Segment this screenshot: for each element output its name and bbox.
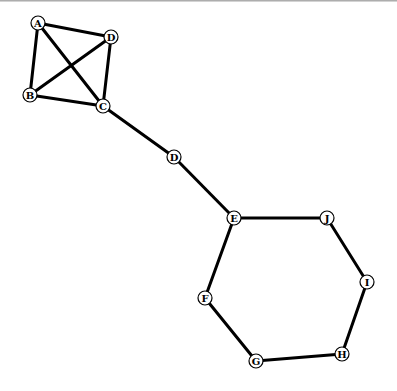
edge-a-b <box>30 23 38 95</box>
node-c: C <box>96 99 110 113</box>
node-label: D <box>107 32 116 43</box>
node-h: H <box>335 347 349 361</box>
edge-d1-c <box>103 37 111 106</box>
node-label: B <box>26 90 34 101</box>
node-label: I <box>365 277 370 288</box>
edge-j-i <box>327 218 367 282</box>
node-i: I <box>360 275 374 289</box>
node-j: J <box>320 211 334 225</box>
node-b: B <box>23 88 37 102</box>
node-d1: D <box>104 30 118 44</box>
node-label: A <box>33 18 42 29</box>
node-f: F <box>198 291 212 305</box>
node-label: C <box>99 101 107 112</box>
node-a: A <box>31 16 45 30</box>
node-label: J <box>324 213 330 224</box>
edge-b-c <box>30 95 103 106</box>
edge-d2-e <box>174 157 234 218</box>
edge-g-f <box>205 298 256 361</box>
node-d2: D <box>167 150 181 164</box>
edge-f-e <box>205 218 234 298</box>
node-label: D <box>170 152 179 163</box>
node-label: E <box>230 213 238 224</box>
edge-d1-b <box>30 37 111 95</box>
edge-c-d2 <box>103 106 174 157</box>
edge-h-g <box>256 354 342 361</box>
node-label: G <box>252 356 261 367</box>
graph-diagram: ADBCDEJIHGF <box>0 0 397 391</box>
node-label: F <box>201 293 208 304</box>
edges-layer <box>30 23 367 361</box>
node-g: G <box>249 354 263 368</box>
edge-i-h <box>342 282 367 354</box>
node-label: H <box>337 349 346 360</box>
node-e: E <box>227 211 241 225</box>
